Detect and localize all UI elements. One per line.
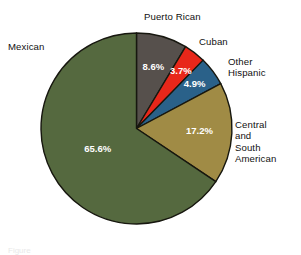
pie-value-mexican: 65.6% (84, 143, 111, 154)
pie-value-cuban: 3.7% (170, 65, 192, 76)
pie-value-central-and-south-american: 17.2% (186, 125, 213, 136)
pie-value-puerto-rican: 8.6% (142, 61, 164, 72)
figure-caption: Figure (8, 246, 31, 255)
pie-value-other-hispanic: 4.9% (184, 78, 206, 89)
slice-label-mexican: Mexican (8, 41, 44, 52)
pie-chart-figure: 8.6%3.7%4.9%17.2%65.6% Mexican Puerto Ri… (0, 0, 301, 255)
slice-label-puerto-rican: Puerto Rican (144, 11, 201, 22)
slice-label-other-hispanic: Other Hispanic (228, 56, 266, 79)
slice-label-central-and-south-american: Central and South American (235, 119, 276, 165)
slice-label-cuban: Cuban (199, 36, 228, 47)
